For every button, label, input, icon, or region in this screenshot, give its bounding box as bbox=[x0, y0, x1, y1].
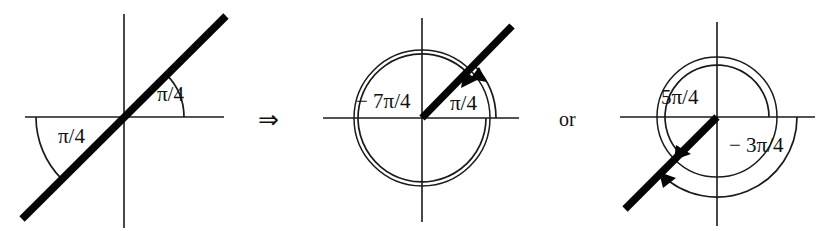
panel-line-through-origin: π/4 π/4 bbox=[22, 14, 226, 228]
angle-label-five-pi-over-4-panel3: 5π/4 bbox=[661, 85, 699, 109]
panel-positive-and-negative-first: − 7π/4 π/4 bbox=[323, 18, 519, 222]
panel-positive-and-negative-second: 5π/4 − 3π/4 bbox=[620, 22, 815, 226]
angle-label-negative-seven-pi-over-4-panel2: − 7π/4 bbox=[356, 89, 411, 113]
implies-arrow-icon: ⇒ bbox=[258, 105, 279, 134]
angle-label-upper-right-panel1: π/4 bbox=[157, 82, 184, 106]
angle-label-negative-three-pi-over-4-panel3: − 3π/4 bbox=[729, 133, 784, 157]
conjunction-or-label: or bbox=[559, 108, 576, 130]
angle-diagram-figure: π/4 π/4 ⇒ − 7π/4 π/4 or bbox=[0, 0, 837, 231]
angle-label-lower-left-panel1: π/4 bbox=[58, 124, 85, 148]
angle-label-pi-over-4-panel2: π/4 bbox=[450, 91, 477, 115]
figure-canvas: π/4 π/4 ⇒ − 7π/4 π/4 or bbox=[0, 0, 837, 231]
arrowhead-negative-three-pi-over-4-panel3 bbox=[659, 172, 676, 188]
